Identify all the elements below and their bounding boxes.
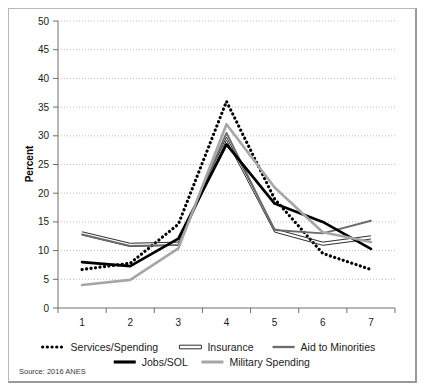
y-tick-label: 50 [38, 16, 50, 27]
x-tick-label: 5 [272, 317, 278, 328]
x-tick-label: 3 [176, 317, 182, 328]
series-aid-to-minorities [82, 133, 371, 246]
legend-item[interactable]: Services/Spending [43, 341, 159, 353]
chart-figure: 05101520253035404550 1234567 Percent Ser… [8, 8, 417, 383]
series-line [82, 133, 371, 246]
y-tick-label: 0 [43, 303, 49, 314]
y-tick-label: 5 [43, 274, 49, 285]
x-tick-label: 1 [79, 317, 85, 328]
line-chart-svg: 05101520253035404550 1234567 Percent Ser… [9, 9, 418, 384]
series-line [82, 144, 371, 266]
y-tick-label: 20 [38, 188, 50, 199]
legend-item[interactable]: Insurance [179, 341, 253, 353]
x-tick-label: 7 [368, 317, 374, 328]
x-tick-label: 6 [320, 317, 326, 328]
legend-item-label: Jobs/SOL [142, 356, 188, 368]
series-insurance [82, 137, 371, 246]
y-tick-label: 30 [38, 130, 50, 141]
legend-item[interactable]: Military Spending [201, 356, 310, 368]
series-line [82, 137, 371, 243]
y-tick-label: 15 [38, 216, 50, 227]
legend-item[interactable]: Jobs/SOL [114, 356, 188, 368]
y-tick-label: 40 [38, 73, 50, 84]
chart-canvas: 05101520253035404550 1234567 Percent Ser… [9, 9, 415, 381]
series-jobs-sol [82, 144, 371, 266]
y-axis-ticks-group: 05101520253035404550 [38, 16, 58, 314]
y-tick-label: 25 [38, 159, 50, 170]
y-tick-label: 45 [38, 44, 50, 55]
series-line [82, 124, 371, 285]
source-note: Source: 2016 ANES [19, 367, 86, 376]
x-tick-label: 4 [224, 317, 230, 328]
series-military-spending [82, 124, 371, 285]
chart-legend: Services/SpendingInsuranceAid to Minorit… [43, 341, 376, 368]
legend-item-label: Military Spending [229, 356, 310, 368]
legend-item[interactable]: Aid to Minorities [273, 341, 376, 353]
legend-item-label: Insurance [207, 341, 253, 353]
x-axis-ticks-group: 1234567 [58, 308, 395, 328]
y-tick-label: 35 [38, 102, 50, 113]
legend-item-label: Services/Spending [71, 341, 159, 353]
legend-item-label: Aid to Minorities [301, 341, 376, 353]
y-tick-label: 10 [38, 245, 50, 256]
y-axis-title: Percent [24, 145, 35, 182]
x-tick-label: 2 [127, 317, 133, 328]
